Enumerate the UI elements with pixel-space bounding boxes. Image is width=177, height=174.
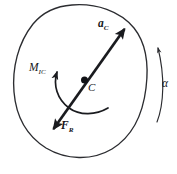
label-fr-subscript: R <box>69 126 74 134</box>
label-acceleration-ac: aC <box>98 18 109 32</box>
label-mic-subscript: IC <box>39 68 46 76</box>
label-moment-mic: MIC <box>29 62 46 76</box>
label-angular-acceleration-alpha: α <box>162 78 168 90</box>
label-fr-symbol: F <box>61 119 69 131</box>
mechanics-diagram-figure: aC MIC FR C α <box>0 0 177 174</box>
label-ac-subscript: C <box>104 24 109 32</box>
label-center-c: C <box>88 82 95 93</box>
label-mic-symbol: M <box>29 61 39 73</box>
rigid-body-outline <box>14 5 147 158</box>
label-force-fr: FR <box>61 120 74 134</box>
center-of-mass-dot <box>81 77 88 84</box>
